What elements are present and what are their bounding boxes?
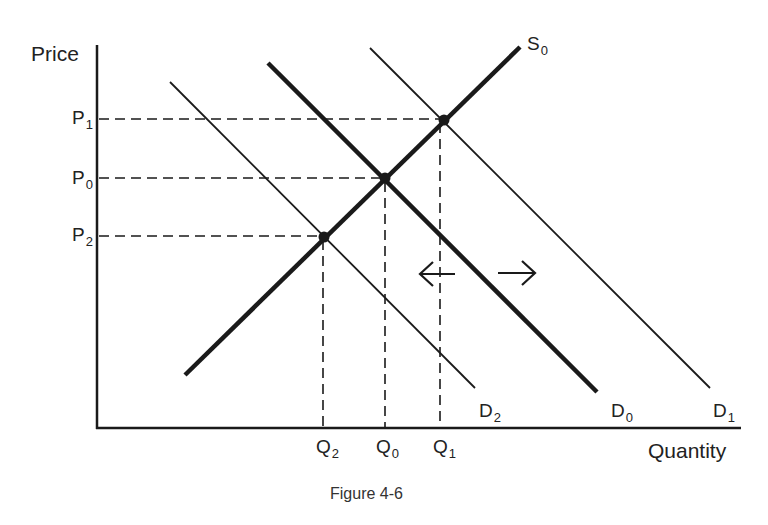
left-shift-arrow-icon [420,262,455,286]
demand-label-d2: D2 [479,401,501,424]
quantity-label-q0: Q0 [376,437,399,460]
demand-label-d0: D0 [611,401,633,424]
price-guides [99,119,445,236]
right-shift-arrow-icon [498,261,535,285]
quantity-label-q2: Q2 [316,437,339,460]
equilibrium-point-1 [439,115,450,126]
supply-label-s0: S0 [527,34,548,57]
quantity-label-q1: Q1 [433,437,456,460]
demand-curve-d0 [268,63,597,392]
equilibrium-point-2 [319,232,330,243]
equilibrium-point-0 [380,173,391,184]
figure-caption: Figure 4-6 [330,486,403,502]
x-axis-title: Quantity [648,440,726,461]
price-label-p2: P2 [72,225,93,248]
y-axis-title: Price [31,43,79,64]
price-label-p1: P1 [72,108,93,131]
demand-label-d1: D1 [713,401,735,424]
supply-curve-s0 [185,47,520,375]
price-label-p0: P0 [72,168,93,191]
